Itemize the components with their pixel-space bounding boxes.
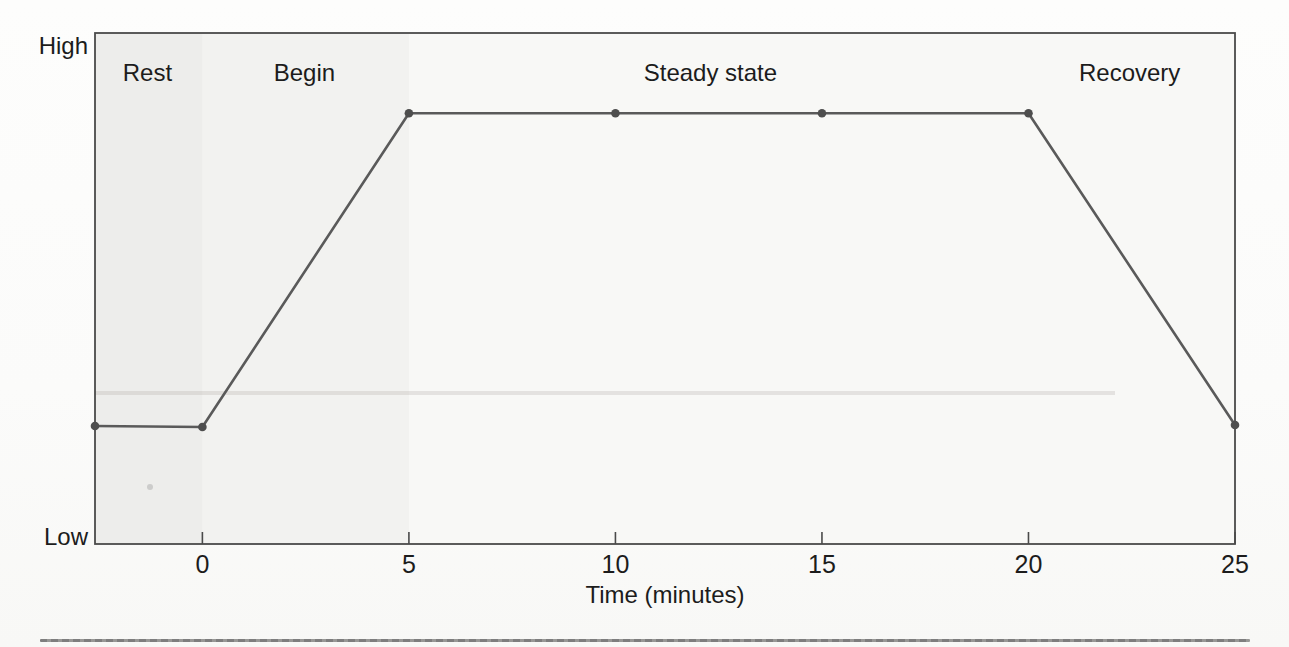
data-point-marker: [91, 422, 100, 431]
exercise-intensity-figure: High Low RestBeginSteady stateRecovery 0…: [0, 0, 1289, 647]
x-tick-label: 25: [1221, 550, 1249, 579]
scan-tint-band-begin: [202, 33, 409, 544]
scan-tint-band-rest: [95, 33, 202, 544]
data-point-marker: [198, 423, 207, 432]
data-point-marker: [818, 109, 827, 118]
data-point-marker: [611, 109, 620, 118]
phase-label-steady-state: Steady state: [644, 59, 777, 87]
phase-label-recovery: Recovery: [1079, 59, 1180, 87]
x-tick-label: 20: [1015, 550, 1043, 579]
x-tick-label: 10: [602, 550, 630, 579]
x-tick-label: 0: [195, 550, 209, 579]
data-point-marker: [405, 109, 414, 118]
page-divider-rule: [40, 639, 1250, 642]
phase-label-begin: Begin: [274, 59, 335, 87]
x-tick-label: 15: [808, 550, 836, 579]
scan-streak-artifact: [95, 391, 1115, 395]
scan-smudge-artifact: [147, 484, 153, 490]
phase-label-rest: Rest: [123, 59, 172, 87]
x-axis-title: Time (minutes): [95, 581, 1235, 609]
data-point-marker: [1231, 421, 1240, 430]
x-tick-label: 5: [402, 550, 416, 579]
y-axis-min-label: Low: [6, 523, 88, 551]
data-point-marker: [1024, 109, 1033, 118]
y-axis-max-label: High: [6, 32, 88, 60]
line-chart-canvas: [0, 0, 1289, 647]
